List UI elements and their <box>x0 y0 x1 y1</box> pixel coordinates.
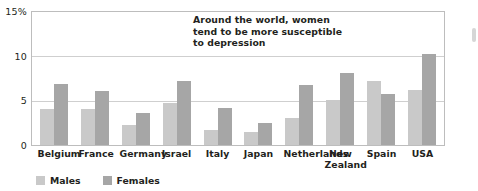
bar-spain-females[interactable] <box>381 94 395 145</box>
bar-israel-females[interactable] <box>177 81 191 145</box>
bar-israel-males[interactable] <box>163 103 177 145</box>
legend: Males Females <box>36 176 160 185</box>
bar-germany-females[interactable] <box>136 113 150 145</box>
bar-italy-females[interactable] <box>218 108 232 145</box>
x-label-spain: Spain <box>366 149 398 177</box>
y-tick-label-0: 0 <box>21 141 27 151</box>
bar-group-usa <box>408 12 436 145</box>
x-label-new-zealand: New Zealand <box>325 149 357 177</box>
bar-new-zealand-females[interactable] <box>340 73 354 145</box>
x-label-germany: Germany <box>120 149 152 177</box>
x-label-belgium: Belgium <box>38 149 70 177</box>
legend-label-females: Females <box>117 176 160 185</box>
x-label-italy: Italy <box>202 149 234 177</box>
bar-group-israel <box>163 12 191 145</box>
x-label-netherlands: Netherlands <box>284 149 316 177</box>
x-label-france: France <box>79 149 111 177</box>
bar-group-france <box>81 12 109 145</box>
bar-usa-males[interactable] <box>408 90 422 145</box>
legend-item-females[interactable]: Females <box>103 176 160 185</box>
bar-group-germany <box>122 12 150 145</box>
legend-item-males[interactable]: Males <box>36 176 81 185</box>
x-label-new-zealand-line-1: New <box>329 148 352 159</box>
bar-spain-males[interactable] <box>367 81 381 145</box>
legend-label-males: Males <box>50 176 81 185</box>
bar-germany-males[interactable] <box>122 125 136 145</box>
annotation-line-3: to depression <box>193 37 358 49</box>
right-edge-artifact <box>472 28 476 42</box>
bar-japan-males[interactable] <box>244 132 258 145</box>
bar-netherlands-males[interactable] <box>285 118 299 145</box>
x-label-new-zealand-line-2: Zealand <box>325 159 367 170</box>
x-label-usa: USA <box>407 149 439 177</box>
y-tick-label-10: 10 <box>15 52 28 62</box>
bar-group-spain <box>367 12 395 145</box>
bar-belgium-females[interactable] <box>54 84 68 145</box>
bar-netherlands-females[interactable] <box>299 85 313 145</box>
bar-new-zealand-males[interactable] <box>326 100 340 145</box>
bar-usa-females[interactable] <box>422 54 436 145</box>
bar-belgium-males[interactable] <box>40 109 54 145</box>
bar-japan-females[interactable] <box>258 123 272 145</box>
y-tick-label-5: 5 <box>21 96 27 106</box>
x-label-japan: Japan <box>243 149 275 177</box>
legend-swatch-females-icon <box>103 176 112 185</box>
legend-swatch-males-icon <box>36 176 45 185</box>
depression-by-gender-bar-chart: 15% 10 5 0 Around the world, women tend … <box>0 0 478 191</box>
x-axis: Belgium France Germany Israel Italy Japa… <box>31 149 445 177</box>
x-label-israel: Israel <box>161 149 193 177</box>
bar-france-females[interactable] <box>95 91 109 145</box>
bar-group-belgium <box>40 12 68 145</box>
annotation-line-1: Around the world, women <box>193 14 358 26</box>
chart-annotation: Around the world, women tend to be more … <box>193 14 358 49</box>
bar-france-males[interactable] <box>81 109 95 145</box>
y-axis: 15% 10 5 0 <box>0 0 30 152</box>
annotation-line-2: tend to be more susceptible <box>193 26 358 38</box>
bar-italy-males[interactable] <box>204 130 218 145</box>
y-tick-label-15: 15% <box>5 7 27 17</box>
